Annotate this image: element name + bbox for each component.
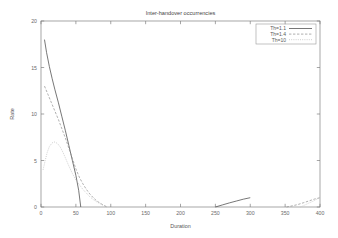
chart-figure: Inter-handover occurrencies0501001502002…	[0, 0, 338, 238]
x-tick-label: 150	[141, 210, 150, 216]
chart-canvas: Inter-handover occurrencies0501001502002…	[0, 0, 338, 238]
x-axis-label: Duration	[170, 223, 190, 229]
series-line-th14	[44, 86, 107, 207]
plot-frame	[41, 21, 320, 207]
legend-label-th10: Th=10	[272, 37, 287, 43]
y-tick-label: 10	[31, 111, 37, 117]
y-axis-label: Rate	[9, 108, 15, 119]
x-tick-label: 50	[73, 210, 79, 216]
x-tick-label: 100	[106, 210, 115, 216]
x-tick-label: 200	[176, 210, 185, 216]
y-tick-label: 5	[34, 158, 37, 164]
x-tick-label: 250	[211, 210, 220, 216]
x-tick-label: 400	[316, 210, 325, 216]
y-tick-label: 0	[34, 204, 37, 210]
series-line-th10	[43, 142, 107, 207]
x-tick-label: 0	[40, 210, 43, 216]
x-tick-label: 350	[281, 210, 290, 216]
y-tick-label: 15	[31, 65, 37, 71]
x-tick-label: 300	[246, 210, 255, 216]
series-tail-th10	[300, 198, 320, 207]
y-tick-label: 20	[31, 18, 37, 24]
series-line-th11	[44, 40, 80, 207]
chart-title: Inter-handover occurrencies	[146, 10, 216, 16]
series-tail-th11	[215, 198, 250, 207]
